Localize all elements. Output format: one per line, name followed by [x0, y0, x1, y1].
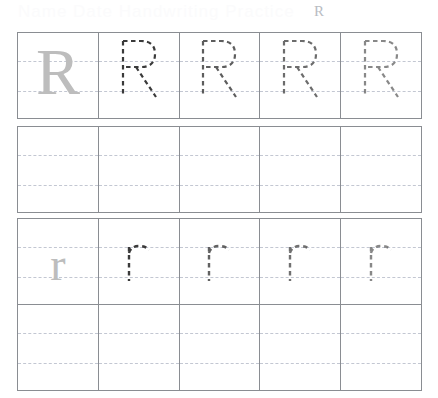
guide-line-bottom — [260, 185, 340, 186]
practice-cell[interactable] — [18, 127, 99, 212]
practice-cell[interactable] — [180, 33, 261, 118]
practice-cell[interactable]: R — [18, 33, 99, 118]
guide-line-bottom — [99, 363, 179, 364]
practice-cell[interactable] — [99, 33, 180, 118]
practice-cell[interactable] — [180, 127, 261, 212]
trace-letter-dashed — [260, 33, 340, 118]
trace-letter-dashed — [341, 33, 421, 118]
lowercase-model-row: r — [17, 218, 422, 305]
trace-letter-dashed — [99, 219, 179, 304]
handwriting-worksheet: Name Date Handwriting Practice R Rr — [0, 0, 438, 398]
practice-cell[interactable] — [341, 219, 421, 304]
uppercase-practice-row — [17, 126, 422, 213]
practice-cell[interactable] — [18, 305, 99, 390]
row-cells — [18, 127, 421, 212]
practice-cell[interactable] — [99, 305, 180, 390]
guide-line-bottom — [180, 185, 260, 186]
trace-letter-dashed — [99, 33, 179, 118]
guide-line-top — [180, 155, 260, 156]
practice-cell[interactable] — [99, 219, 180, 304]
guide-line-bottom — [99, 185, 179, 186]
header-letter-label: R — [314, 4, 324, 19]
guide-line-bottom — [18, 185, 98, 186]
guide-line-top — [18, 333, 98, 334]
guide-line-bottom — [180, 363, 260, 364]
practice-cell[interactable] — [260, 305, 341, 390]
worksheet-header: Name Date Handwriting Practice R — [0, 0, 438, 30]
guide-line-bottom — [260, 363, 340, 364]
guide-line-bottom — [341, 363, 421, 364]
guide-line-top — [180, 333, 260, 334]
guide-line-top — [99, 155, 179, 156]
practice-cell[interactable] — [260, 33, 341, 118]
model-letter-solid: R — [18, 39, 98, 105]
uppercase-model-row: R — [17, 32, 422, 119]
trace-letter-dashed — [260, 219, 340, 304]
row-cells — [18, 305, 421, 390]
row-cells: R — [18, 33, 421, 118]
guide-line-top — [341, 155, 421, 156]
trace-letter-dashed — [180, 33, 260, 118]
row-cells: r — [18, 219, 421, 304]
practice-cell[interactable] — [180, 305, 261, 390]
trace-letter-dashed — [180, 219, 260, 304]
guide-line-top — [260, 333, 340, 334]
practice-cell[interactable] — [341, 127, 421, 212]
trace-letter-dashed — [341, 219, 421, 304]
practice-cell[interactable]: r — [18, 219, 99, 304]
guide-line-top — [18, 155, 98, 156]
practice-cell[interactable] — [99, 127, 180, 212]
model-letter-solid: r — [18, 242, 98, 288]
header-ghost-text: Name Date Handwriting Practice — [18, 2, 318, 24]
guide-line-bottom — [341, 185, 421, 186]
lowercase-practice-row — [17, 304, 422, 391]
practice-cell[interactable] — [180, 219, 261, 304]
guide-line-top — [99, 333, 179, 334]
practice-cell[interactable] — [260, 219, 341, 304]
guide-line-top — [341, 333, 421, 334]
practice-cell[interactable] — [260, 127, 341, 212]
practice-cell[interactable] — [341, 33, 421, 118]
guide-line-top — [260, 155, 340, 156]
practice-cell[interactable] — [341, 305, 421, 390]
guide-line-bottom — [18, 363, 98, 364]
